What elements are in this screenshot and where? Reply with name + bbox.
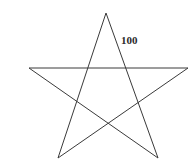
star-diagram (0, 0, 194, 161)
figure-canvas: 100 (0, 0, 194, 161)
edge-length-label-100: 100 (121, 35, 138, 46)
pentagram-path (29, 13, 188, 158)
